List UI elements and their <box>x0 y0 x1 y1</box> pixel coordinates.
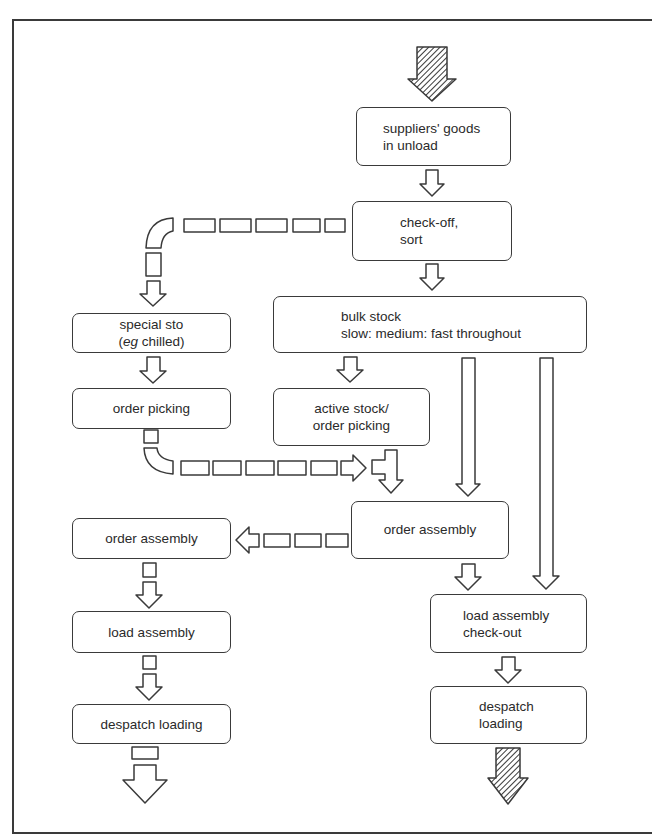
entry-hatched-arrow-icon <box>408 47 456 101</box>
arrow-down-icon <box>455 564 481 590</box>
node-special-storage: special sto (eg chilled) <box>72 313 231 353</box>
exit-hatched-arrow-icon <box>488 748 528 804</box>
arrow-down-icon <box>420 170 444 196</box>
italic-eg: eg <box>123 334 138 349</box>
arrow-down-icon <box>495 657 521 683</box>
node-order-picking-left: order picking <box>72 388 231 429</box>
node-active-stock: active stock/ order picking <box>273 388 430 446</box>
node-label: check-out <box>463 624 522 641</box>
dashed-route-assembly-to-load <box>136 563 162 608</box>
node-load-assembly-left: load assembly <box>72 611 231 653</box>
node-suppliers-goods: suppliers' goods in unload <box>356 107 511 166</box>
node-order-assembly-left: order assembly <box>72 518 231 559</box>
chilled-text: chilled) <box>138 334 185 349</box>
node-label-sub: (eg chilled) <box>118 333 184 350</box>
node-label: order picking <box>313 417 390 434</box>
node-label: bulk stock <box>341 308 401 325</box>
node-despatch-loading-right: despatch loading <box>430 686 587 744</box>
node-label: special sto <box>120 316 184 333</box>
node-label: order assembly <box>105 530 197 547</box>
node-label: order picking <box>113 400 190 417</box>
arrow-down-icon <box>337 357 363 382</box>
node-label: suppliers' goods <box>383 120 480 137</box>
node-label: despatch <box>479 698 534 715</box>
node-label: check-off, <box>400 214 458 231</box>
node-label: loading <box>479 715 523 732</box>
long-arrow-down-icon <box>533 358 559 589</box>
node-label: order assembly <box>384 521 476 538</box>
node-label: load assembly <box>108 624 194 641</box>
arrow-down-icon <box>420 264 444 290</box>
arrow-down-icon <box>140 357 166 383</box>
node-despatch-loading-left: despatch loading <box>72 704 231 744</box>
long-arrow-down-icon <box>456 358 480 496</box>
node-label: slow: medium: fast throughout <box>341 325 521 342</box>
node-bulk-stock: bulk stock slow: medium: fast throughout <box>273 296 587 353</box>
left-exit-arrow <box>123 747 167 803</box>
node-label: active stock/ <box>314 400 388 417</box>
node-load-assembly-checkout: load assembly check-out <box>430 594 587 653</box>
dashed-route-check-off-to-special <box>140 218 345 306</box>
node-label: despatch loading <box>100 716 202 733</box>
node-order-assembly-right: order assembly <box>351 501 509 559</box>
node-label: load assembly <box>463 607 549 624</box>
dashed-route-assembly-right-to-left <box>236 527 348 553</box>
node-check-off-sort: check-off, sort <box>352 201 512 261</box>
dashed-route-load-to-despatch <box>136 656 162 700</box>
node-label: sort <box>400 231 423 248</box>
node-label: in unload <box>383 137 438 154</box>
